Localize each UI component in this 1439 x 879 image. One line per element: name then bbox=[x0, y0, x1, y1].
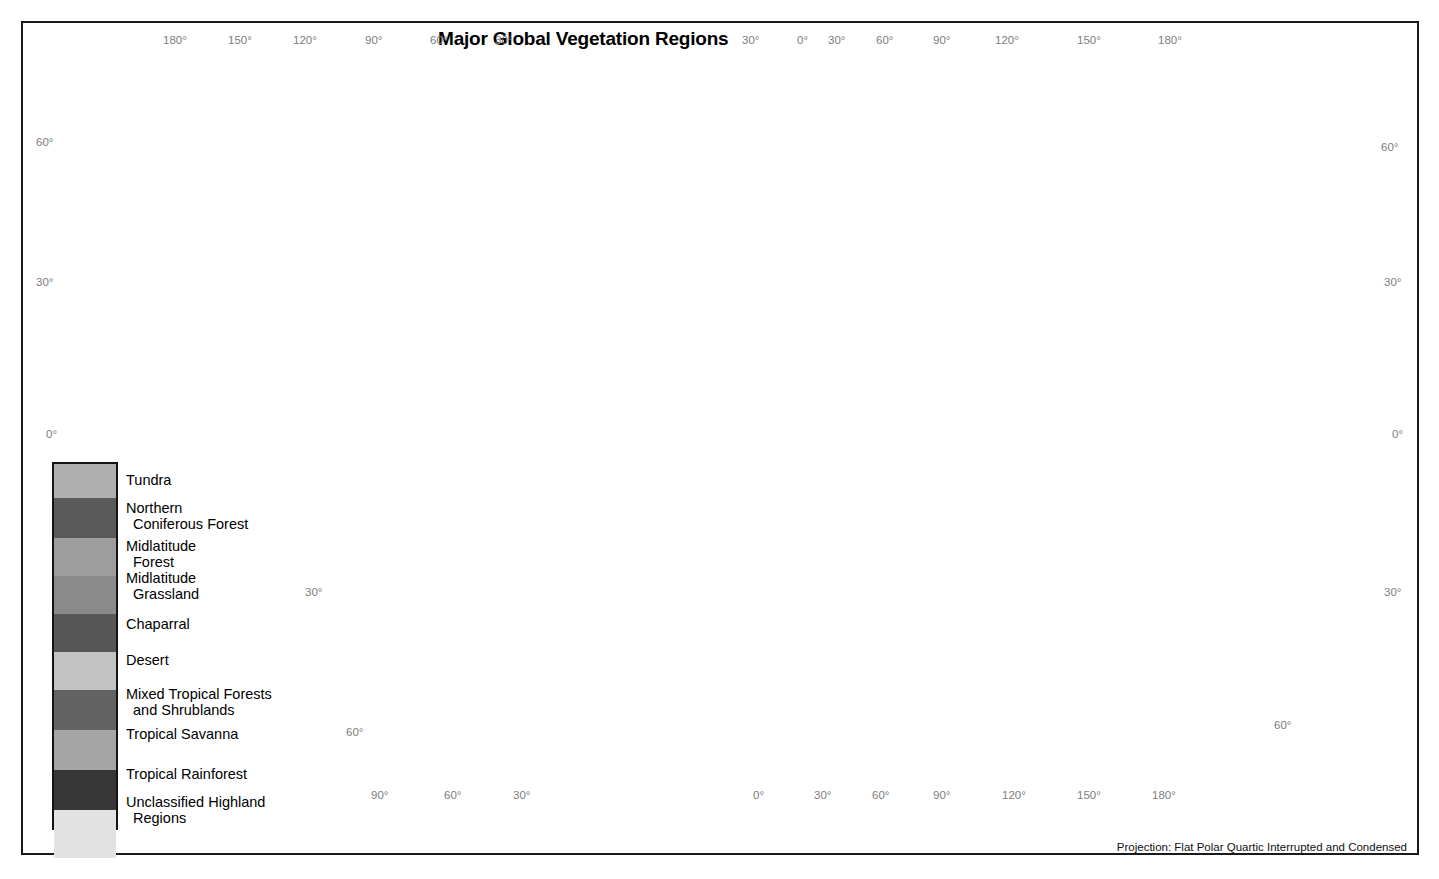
legend-swatch-chaparral bbox=[54, 614, 116, 652]
lat-label-left-30n: 30 bbox=[36, 276, 53, 288]
legend-label-chaparral: Chaparral bbox=[126, 616, 190, 632]
legend-label-coniferous-forest-l1: Northern bbox=[126, 500, 182, 516]
legend-swatch-desert bbox=[54, 652, 116, 690]
lon-label-bot-e-4: 120 bbox=[1002, 789, 1026, 801]
lat-label-right-30s: 30 bbox=[1384, 586, 1401, 598]
legend-swatch-mixed-tropical bbox=[54, 690, 116, 730]
map-title: Major Global Vegetation Regions bbox=[438, 28, 728, 50]
legend-label-tropical-rainforest: Tropical Rainforest bbox=[126, 766, 247, 782]
lon-label-bot-w-0: 90 bbox=[371, 789, 388, 801]
legend-label-midlatitude-forest-l1: Midlatitude bbox=[126, 538, 196, 554]
legend-item-midlatitude-grassland: Midlatitude Grassland bbox=[126, 570, 199, 602]
lon-label-top-w-0: 180 bbox=[163, 34, 187, 46]
legend-item-mixed-tropical: Mixed Tropical Forests and Shrublands bbox=[126, 686, 272, 718]
lon-label-top-w-3: 90 bbox=[365, 34, 382, 46]
lon-label-bot-w-1: 60 bbox=[444, 789, 461, 801]
legend-color-bar bbox=[52, 462, 118, 830]
legend-swatch-tropical-rainforest bbox=[54, 770, 116, 810]
legend-label-mixed-tropical-l1: Mixed Tropical Forests bbox=[126, 686, 272, 702]
legend-item-desert: Desert bbox=[126, 652, 169, 668]
legend-label-desert: Desert bbox=[126, 652, 169, 668]
legend: Tundra Northern Coniferous Forest Midlat… bbox=[52, 462, 348, 830]
map-page: Major Global Vegetation Regions Projecti… bbox=[0, 0, 1439, 879]
lat-label-right-0: 0 bbox=[1392, 428, 1403, 440]
lon-label-top-e-4: 90 bbox=[933, 34, 950, 46]
lon-label-bot-e-1: 30 bbox=[814, 789, 831, 801]
lat-label-right-30n: 30 bbox=[1384, 276, 1401, 288]
legend-label-coniferous-forest-l2: Coniferous Forest bbox=[126, 516, 248, 532]
legend-label-mixed-tropical-l2: and Shrublands bbox=[126, 702, 272, 718]
lon-label-top-e-3: 60 bbox=[876, 34, 893, 46]
lon-label-bot-e-0: 0 bbox=[753, 789, 764, 801]
lat-label-right-60n: 60 bbox=[1381, 141, 1398, 153]
lat-label-left-60n: 60 bbox=[36, 136, 53, 148]
legend-item-tropical-rainforest: Tropical Rainforest bbox=[126, 766, 247, 782]
legend-item-tundra: Tundra bbox=[126, 472, 171, 488]
legend-item-chaparral: Chaparral bbox=[126, 616, 190, 632]
projection-note: Projection: Flat Polar Quartic Interrupt… bbox=[1117, 841, 1407, 853]
legend-swatch-tundra bbox=[54, 464, 116, 498]
lon-label-top-e-5: 120 bbox=[995, 34, 1019, 46]
lat-label-right-60s: 60 bbox=[1274, 719, 1291, 731]
legend-item-tropical-savanna: Tropical Savanna bbox=[126, 726, 238, 742]
lon-label-bot-e-3: 90 bbox=[933, 789, 950, 801]
lat-label-left-60s: 60 bbox=[346, 726, 363, 738]
lon-label-top-w-1: 150 bbox=[228, 34, 252, 46]
lon-label-bot-e-2: 60 bbox=[872, 789, 889, 801]
legend-item-midlatitude-forest: Midlatitude Forest bbox=[126, 538, 196, 570]
lon-label-top-w-5: 30 bbox=[495, 34, 512, 46]
legend-label-midlatitude-forest-l2: Forest bbox=[126, 554, 196, 570]
lon-label-top-e-0: 30 bbox=[742, 34, 759, 46]
legend-label-midlatitude-grassland-l1: Midlatitude bbox=[126, 570, 196, 586]
lon-label-top-e-6: 150 bbox=[1077, 34, 1101, 46]
lon-label-top-e-1: 0 bbox=[797, 34, 808, 46]
lon-label-top-w-4: 60 bbox=[430, 34, 447, 46]
lon-label-bot-w-2: 30 bbox=[513, 789, 530, 801]
legend-label-midlatitude-grassland-l2: Grassland bbox=[126, 586, 199, 602]
legend-swatch-tropical-savanna bbox=[54, 730, 116, 770]
lon-label-bot-e-6: 180 bbox=[1152, 789, 1176, 801]
legend-label-unclassified-highland-l2: Regions bbox=[126, 810, 265, 826]
legend-label-unclassified-highland-l1: Unclassified Highland bbox=[126, 794, 265, 810]
lon-label-top-w-2: 120 bbox=[293, 34, 317, 46]
legend-swatch-coniferous-forest bbox=[54, 498, 116, 538]
legend-label-tundra: Tundra bbox=[126, 472, 171, 488]
legend-label-tropical-savanna: Tropical Savanna bbox=[126, 726, 238, 742]
legend-swatch-midlatitude-grassland bbox=[54, 576, 116, 614]
legend-item-unclassified-highland: Unclassified Highland Regions bbox=[126, 794, 265, 826]
legend-item-coniferous-forest: Northern Coniferous Forest bbox=[126, 500, 248, 532]
lat-label-left-0: 0 bbox=[46, 428, 57, 440]
lon-label-top-e-2: 30 bbox=[828, 34, 845, 46]
legend-swatch-midlatitude-forest bbox=[54, 538, 116, 576]
lon-label-bot-e-5: 150 bbox=[1077, 789, 1101, 801]
legend-swatch-unclassified-highland bbox=[54, 810, 116, 858]
legend-labels: Tundra Northern Coniferous Forest Midlat… bbox=[126, 462, 348, 830]
lon-label-top-e-7: 180 bbox=[1158, 34, 1182, 46]
